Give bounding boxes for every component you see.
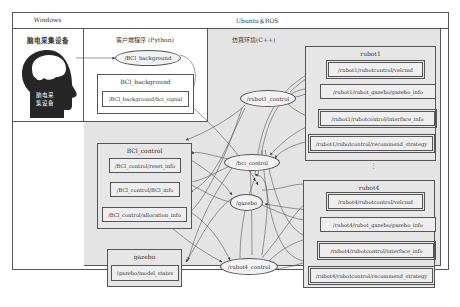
group-bci-control-title: BCl_control [97,147,192,154]
topic-bci-allocation-info[interactable]: /BCl_control/allocation_info [102,207,187,222]
ubuntu-header-label: Ubuntu＆ROS [236,16,296,25]
topic-rubot1-interface-info[interactable]: /rubot1/rubotcontrol/interface_info [320,111,435,126]
topic-rubot4-velcmd[interactable]: /rubot4/rubotcontrol/velcmd [328,194,423,209]
node-rubot4-control[interactable]: /rubot4_control [220,258,278,275]
node-bci-background[interactable]: /BCl_background [115,50,181,66]
topic-rubot4-interface-info[interactable]: /rubot4/rubotcontrol/interface_info [319,243,434,258]
topic-gazebo-model-states[interactable]: /gazebo/model_states [111,265,179,281]
sim-env-title: 仿真环境(C++) [232,35,275,44]
head-brain-icon [18,48,78,120]
topic-rubot4-recommend-strategy[interactable]: /rubot4/rubotcontrol/recommend_strategy [310,268,433,283]
head-text-line1: 脑电采 [30,91,60,99]
group-rubot1-title: rubot1 [305,50,436,57]
group-bci-background-title: BCl_background [97,78,194,85]
head-text-line2: 集设备 [30,99,60,107]
topic-rubot4-gazebo-info[interactable]: /rubot4/rubot_gazebo/gazebo_info [320,217,436,232]
windows-header-label: Windows [12,16,83,23]
node-gazebo[interactable]: /gazebo [230,194,263,211]
topic-rubot1-gazebo-info[interactable]: /rubot1/rubot_gazebo/gazebo_info [320,84,436,99]
ellipsis-separator: ⋮ [368,162,378,170]
topic-bci-signal[interactable]: /BCl_background/bci_signal [102,91,189,107]
group-rubot4-title: rubot4 [303,184,435,191]
node-bci-control[interactable]: /bci_control [224,154,280,171]
node-rubot1-control[interactable]: /rubot1_control [240,90,296,107]
eeg-device-title: 脑电采集设备 [12,35,83,45]
client-program-title: 客户端程序 (Python) [100,35,190,44]
group-gazebo-title: gazebo [107,253,182,260]
topic-bci-reset-info[interactable]: /BCl_control/reset_info [109,158,181,173]
topic-bci-info[interactable]: /BCl_control/BCl_info [110,182,180,197]
topic-rubot1-velcmd[interactable]: /rubot1/rubotcontrol/velcmd [328,62,423,77]
topic-rubot1-recommend-strategy[interactable]: /rubot1/rubotcontrol/recommend_strategy [310,136,433,151]
